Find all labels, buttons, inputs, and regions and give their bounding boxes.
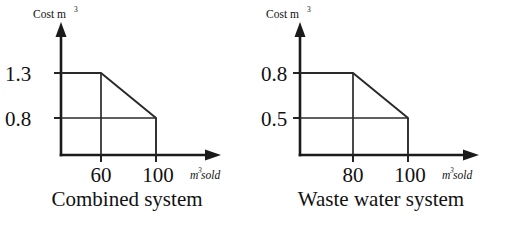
y-axis-label-combined: Cost m	[33, 8, 66, 20]
figure-combined-system: Cost m 3 1.3 0.8	[0, 0, 254, 235]
cost-curve-waste	[300, 73, 408, 155]
y-axis-arrowhead-combined	[56, 22, 67, 37]
cost-curve-combined	[61, 73, 156, 155]
y-axis-label-superscript-waste: 3	[307, 5, 311, 14]
x-axis-arrowhead-combined	[205, 150, 221, 161]
figure-page: Cost m 3 1.3 0.8	[0, 0, 508, 235]
y-axis-label-waste: Cost m	[266, 8, 299, 20]
y-axis-label-superscript-combined: 3	[74, 5, 78, 14]
caption-waste-water-system: Waste water system	[254, 186, 508, 212]
x-tick-label-end-combined: 100	[142, 163, 174, 187]
x-axis-label-tail-waste: sold	[453, 169, 472, 181]
x-axis-label-tail-combined: sold	[201, 169, 220, 181]
chart-svg-combined-system: Cost m 3 1.3 0.8	[0, 0, 254, 190]
chart-svg-waste-water-system: Cost m 3 0.8 0.5	[254, 0, 508, 190]
plot-combined-system: Cost m 3 1.3 0.8	[0, 0, 254, 190]
caption-combined-system: Combined system	[0, 186, 254, 212]
y-tick-label-high-combined: 1.3	[5, 62, 31, 86]
plot-waste-water-system: Cost m 3 0.8 0.5	[254, 0, 508, 190]
y-tick-label-high-waste: 0.8	[261, 62, 287, 86]
x-tick-label-mid-waste: 80	[343, 163, 364, 187]
y-tick-label-low-combined: 0.8	[5, 107, 31, 131]
figure-waste-water-system: Cost m 3 0.8 0.5	[254, 0, 508, 235]
y-tick-label-low-waste: 0.5	[261, 107, 287, 131]
x-axis-arrowhead-waste	[463, 150, 479, 161]
x-tick-label-mid-combined: 60	[91, 163, 112, 187]
y-axis-arrowhead-waste	[295, 22, 306, 37]
x-tick-label-end-waste: 100	[394, 163, 426, 187]
